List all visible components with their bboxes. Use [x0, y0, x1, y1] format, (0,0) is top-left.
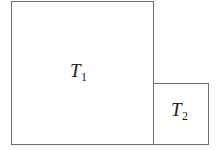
- label-t2-subscript: 2: [182, 109, 188, 123]
- label-t2-base: T: [171, 99, 182, 120]
- label-t2: T2: [171, 100, 188, 119]
- label-t1-subscript: 1: [81, 70, 87, 84]
- label-t1-base: T: [70, 60, 81, 81]
- figure-canvas: T1 T2: [0, 0, 219, 150]
- label-t1: T1: [70, 61, 87, 80]
